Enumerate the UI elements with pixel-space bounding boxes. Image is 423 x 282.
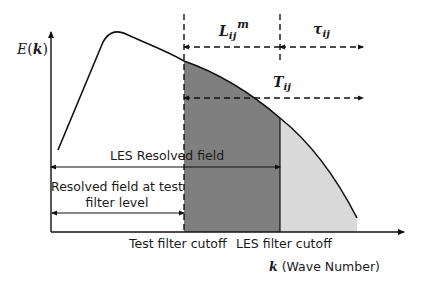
les-filter-cutoff-label: LES filter cutoff [236, 236, 332, 251]
resolved-test-field-label-line2: filter level [86, 195, 149, 210]
sgs-stress-label: τij [313, 21, 330, 39]
resolved-test-field-label-line1: Resolved field at test [51, 179, 183, 194]
energy-spectrum-diagram: E(k) Lijm τij Tij LES Resolved field Res… [0, 0, 423, 282]
leonard-stress-label: Lijm [218, 18, 249, 41]
y-axis-label: E(k) [16, 41, 48, 57]
test-filter-cutoff-label: Test filter cutoff [128, 236, 227, 251]
x-axis-label: k(Wave Number) [269, 259, 380, 274]
les-test-band-region [280, 118, 357, 232]
test-sgs-stress-label: Tij [273, 74, 291, 92]
resolved-test-filter-region [184, 61, 280, 232]
les-resolved-field-label: LES Resolved field [110, 148, 224, 163]
